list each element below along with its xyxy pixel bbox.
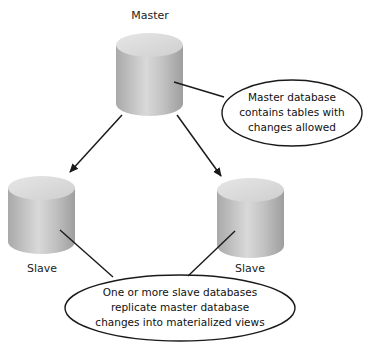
- slaves-callout-line-2: replicate master database: [75, 300, 285, 315]
- replication-arrow-left: [70, 115, 122, 172]
- master-callout-line-2: contains tables with: [227, 105, 357, 120]
- master-callout-line-3: changes allowed: [227, 120, 357, 135]
- replication-arrow-right: [177, 115, 221, 176]
- master-database-cylinder: [116, 33, 183, 116]
- master-label: Master: [120, 9, 180, 22]
- slaves-callout-line-3: changes into materialized views: [75, 315, 285, 330]
- master-callout-text: Master database contains tables with cha…: [227, 90, 357, 135]
- slaves-callout-line-1: One or more slave databases: [75, 285, 285, 300]
- master-callout-line-1: Master database: [227, 90, 357, 105]
- slave-right-label: Slave: [220, 262, 280, 275]
- slave-database-left-cylinder: [8, 176, 75, 254]
- slaves-callout-text: One or more slave databases replicate ma…: [75, 285, 285, 330]
- slave-database-right-cylinder: [217, 178, 284, 258]
- slave-left-label: Slave: [12, 262, 72, 275]
